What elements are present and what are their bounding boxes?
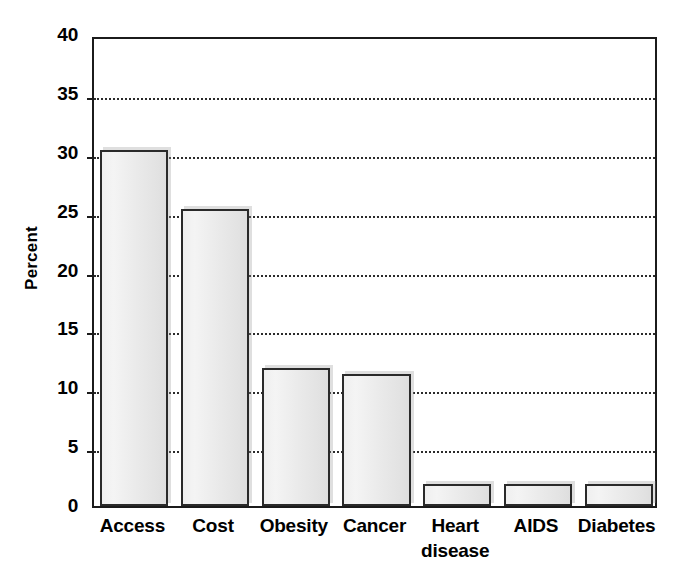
x-axis-tick-label-line: Obesity: [247, 513, 340, 538]
y-axis-tick-label: 0: [36, 495, 78, 517]
bar[interactable]: [342, 374, 410, 506]
y-axis-title: Percent: [22, 208, 42, 308]
y-axis-tick-label: 15: [36, 318, 78, 340]
page-bleed-through-artifact: [110, 0, 670, 18]
bar-slot: [342, 39, 410, 506]
bar-slot: [262, 39, 330, 506]
bar-chart-figure: Percent 4035302520151050 AccessCostObesi…: [0, 0, 674, 571]
y-axis-tick-label: 25: [36, 201, 78, 223]
bar-slot: [585, 39, 653, 506]
x-axis-tick-labels: AccessCostObesityCancerHeartdiseaseAIDSD…: [92, 513, 657, 571]
x-axis-tick-label-line: Cancer: [328, 513, 421, 538]
y-axis-tick-label: 35: [36, 83, 78, 105]
x-axis-tick-label-line: disease: [409, 538, 502, 563]
x-axis-tick-label: Access: [86, 513, 179, 538]
x-axis-tick-label: AIDS: [490, 513, 583, 538]
plot-area: [92, 37, 657, 508]
bar-slot: [423, 39, 491, 506]
x-axis-tick-label: Cancer: [328, 513, 421, 538]
y-axis-tick-label: 40: [36, 24, 78, 46]
bars-series: [94, 39, 655, 506]
bar-slot: [181, 39, 249, 506]
x-axis-tick-label: Obesity: [247, 513, 340, 538]
y-axis-tick-label: 20: [36, 260, 78, 282]
y-axis-tick-label: 5: [36, 436, 78, 458]
x-axis-tick-label-line: AIDS: [490, 513, 583, 538]
y-axis-tick-label: 30: [36, 142, 78, 164]
bar-slot: [504, 39, 572, 506]
x-axis-tick-label: Diabetes: [570, 513, 663, 538]
x-axis-tick-label-line: Access: [86, 513, 179, 538]
y-axis-tickmark: [87, 98, 94, 100]
y-axis-tick-label: 10: [36, 377, 78, 399]
bar[interactable]: [181, 209, 249, 506]
x-axis-tick-label-line: Diabetes: [570, 513, 663, 538]
bar[interactable]: [504, 484, 572, 506]
x-axis-tick-label-line: Heart: [409, 513, 502, 538]
bar[interactable]: [585, 484, 653, 506]
x-axis-tick-label-line: Cost: [167, 513, 260, 538]
y-axis-tickmark: [87, 451, 94, 453]
bar[interactable]: [100, 150, 168, 506]
bar[interactable]: [423, 484, 491, 506]
bar[interactable]: [262, 368, 330, 506]
bar-slot: [100, 39, 168, 506]
x-axis-tick-label: Cost: [167, 513, 260, 538]
y-axis-tickmark: [87, 275, 94, 277]
y-axis-tickmark: [87, 392, 94, 394]
x-axis-tick-label: Heartdisease: [409, 513, 502, 563]
y-axis-tickmark: [87, 216, 94, 218]
y-axis-tickmark: [87, 333, 94, 335]
y-axis-tickmark: [87, 157, 94, 159]
